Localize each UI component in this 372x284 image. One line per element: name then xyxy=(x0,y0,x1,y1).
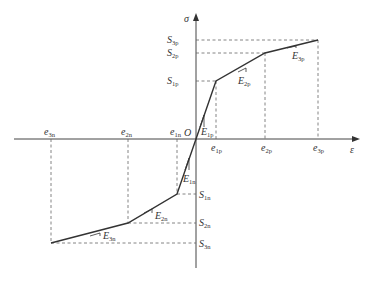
x-axis-arrow-icon xyxy=(352,136,360,142)
label-e1p: e1p xyxy=(211,142,222,154)
stress-strain-curve xyxy=(51,40,318,243)
slope-triangles xyxy=(90,46,296,236)
label-s2n: S2n xyxy=(199,217,211,229)
y-axis-label: σ xyxy=(184,13,190,24)
label-e3p: e3p xyxy=(313,142,324,154)
label-s3p: S3p xyxy=(167,34,179,46)
label-e2n-modulus: E2n xyxy=(154,210,168,222)
label-s3n: S3n xyxy=(199,238,211,250)
label-e2p: e2p xyxy=(261,142,272,154)
label-s1p: S1p xyxy=(167,75,179,87)
y-axis-arrow-icon xyxy=(193,13,199,21)
label-s1n: S1n xyxy=(199,189,211,201)
label-e3p-modulus: E3p xyxy=(291,50,305,62)
guide-lines xyxy=(51,40,318,243)
label-e1p-modulus: E1p xyxy=(200,126,214,138)
label-e1n: e1n xyxy=(170,126,182,138)
label-s2p: S2p xyxy=(167,47,179,59)
origin-label: O xyxy=(184,127,191,138)
label-e3n: e3n xyxy=(44,126,56,138)
label-e2n: e2n xyxy=(121,126,133,138)
stress-strain-diagram: σ ε O S3p S2p S1p e1p e2p e3p E1p E2p E3… xyxy=(0,0,372,284)
x-axis-label: ε xyxy=(350,144,354,155)
label-e2p-modulus: E2p xyxy=(237,75,251,87)
label-e3n-modulus: E3n xyxy=(102,230,116,242)
axes xyxy=(14,13,360,268)
label-e1n-modulus: E1n xyxy=(182,173,196,185)
